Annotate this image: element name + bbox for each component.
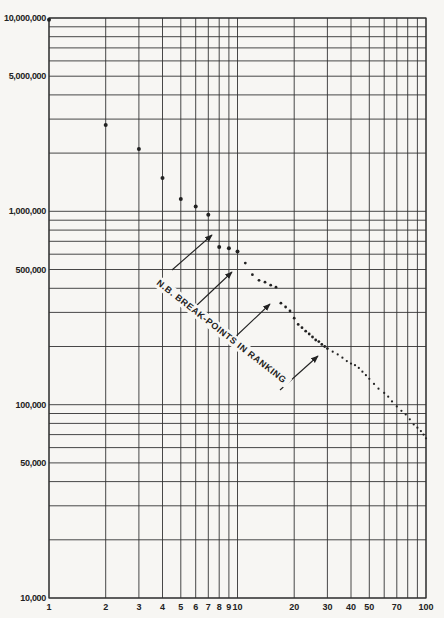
data-point [194, 204, 198, 208]
x-tick-label: 6 [193, 602, 198, 612]
data-point [337, 353, 339, 355]
x-tick-label: 70 [392, 602, 402, 612]
data-point [350, 363, 352, 365]
x-tick-label: 30 [322, 602, 332, 612]
data-point [275, 286, 278, 289]
data-point [137, 147, 141, 151]
data-point [383, 392, 385, 394]
y-tick-label: 100,000 [16, 400, 47, 410]
data-point [320, 343, 323, 346]
data-point [365, 374, 367, 376]
data-point [264, 281, 267, 284]
x-tick-label: 100 [418, 602, 433, 612]
y-tick-label: 10,000,000 [4, 13, 46, 23]
x-tick-label: 7 [206, 602, 211, 612]
data-point [391, 400, 393, 402]
data-point [289, 310, 292, 313]
rank-size-chart: 10,000,0005,000,0001,000,000500,000100,0… [0, 0, 444, 618]
data-point [422, 434, 424, 436]
x-tick-label: 40 [346, 602, 356, 612]
data-point [227, 246, 231, 250]
data-point [400, 410, 402, 412]
data-point [280, 302, 283, 305]
data-point [301, 326, 304, 329]
data-point [104, 123, 108, 127]
data-point [358, 367, 360, 369]
data-point [396, 405, 398, 407]
y-tick-label: 500,000 [16, 265, 47, 275]
data-point [332, 351, 334, 353]
data-point [244, 262, 247, 265]
x-tick-label: 9 [226, 602, 231, 612]
data-point [269, 284, 272, 287]
data-point [308, 333, 311, 336]
data-point [179, 197, 183, 201]
data-point [361, 371, 363, 373]
data-point [258, 279, 261, 282]
x-tick-label: 50 [364, 602, 374, 612]
data-point [346, 360, 348, 362]
break-points-annotation: N.B. BREAK-POINTS IN RANKING [155, 278, 289, 386]
data-point [314, 339, 317, 342]
x-tick-label: 3 [136, 602, 141, 612]
chart-grid [49, 18, 426, 598]
data-point [317, 340, 320, 343]
data-point [297, 323, 300, 326]
data-point [323, 345, 326, 348]
y-tick-label: 50,000 [20, 458, 46, 468]
x-tick-label: 5 [178, 602, 183, 612]
data-point [161, 176, 165, 180]
data-point [387, 396, 389, 398]
x-tick-label: 4 [160, 602, 165, 612]
y-axis-tick-labels: 10,000,0005,000,0001,000,000500,000100,0… [4, 13, 46, 603]
data-point [251, 273, 254, 276]
annotation-text: N.B. BREAK-POINTS IN RANKING [151, 274, 292, 388]
data-point [311, 336, 314, 339]
data-point [413, 423, 415, 425]
data-point [236, 250, 240, 254]
x-tick-label: 1 [46, 602, 51, 612]
data-point [293, 317, 296, 320]
x-axis-tick-labels: 123456789102030405070100 [46, 602, 433, 612]
data-point [206, 213, 210, 217]
data-point [377, 388, 379, 390]
data-point [354, 364, 356, 366]
data-point [47, 18, 51, 22]
data-point [341, 357, 343, 359]
x-tick-label: 10 [232, 602, 242, 612]
y-tick-label: 5,000,000 [9, 71, 47, 81]
arrow-icon [196, 272, 232, 306]
annotation-label-group: N.B. BREAK-POINTS IN RANKING [151, 274, 292, 388]
x-tick-label: 20 [289, 602, 299, 612]
data-point [416, 427, 418, 429]
data-point [373, 383, 375, 385]
data-point [405, 413, 407, 415]
x-tick-label: 8 [217, 602, 222, 612]
x-tick-label: 2 [103, 602, 108, 612]
y-tick-label: 1,000,000 [9, 206, 47, 216]
data-point [326, 347, 329, 350]
data-point [217, 245, 221, 249]
y-tick-label: 10,000 [20, 593, 46, 603]
data-point [409, 418, 411, 420]
data-point [304, 330, 307, 333]
data-point [420, 430, 422, 432]
data-point [284, 306, 287, 309]
arrow-icon [172, 235, 212, 270]
data-point [425, 437, 427, 439]
data-point [368, 378, 370, 380]
